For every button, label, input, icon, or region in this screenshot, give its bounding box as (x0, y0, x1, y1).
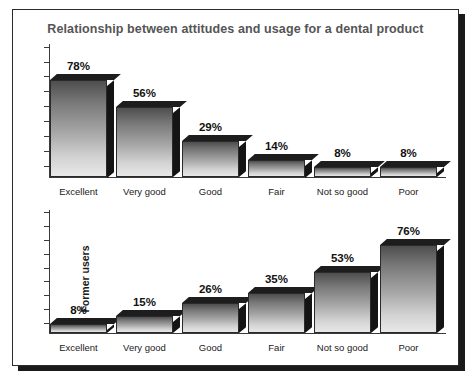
x-axis-category-label: Good (182, 186, 239, 197)
bar-face (314, 167, 371, 177)
chart-frame: Relationship between attitudes and usage… (12, 9, 459, 366)
bar-face (380, 245, 437, 333)
x-axis-category-label: Poor (380, 186, 437, 197)
y-axis-tick (44, 121, 49, 122)
bar-top-3d (182, 135, 253, 141)
bar-top-3d (50, 74, 121, 80)
y-axis-tick (44, 62, 49, 63)
y-axis-tick (44, 136, 49, 137)
bar-side-3d (437, 245, 444, 333)
x-axis-category-label: Not so good (314, 342, 371, 353)
bar-face (248, 160, 305, 178)
bar[interactable] (50, 324, 107, 333)
bar-face (380, 167, 437, 177)
y-axis-tick (44, 76, 49, 77)
bar-face (248, 293, 305, 333)
bar-group-former-users: 8%Excellent15%Very good26%Good35%Fair53%… (50, 210, 446, 333)
bar[interactable] (380, 245, 437, 333)
bar-value-label: 29% (182, 121, 239, 133)
bar-side-3d (239, 303, 246, 333)
bar-top-3d (314, 161, 385, 167)
y-axis-tick (44, 281, 49, 282)
bar-value-label: 76% (380, 225, 437, 237)
x-axis-category-label: Fair (248, 342, 305, 353)
chart-screenshot: Relationship between attitudes and usage… (0, 0, 472, 381)
bar-slot: 76%Poor (380, 210, 446, 333)
x-axis-category-label: Fair (248, 186, 305, 197)
bar-group-current-users: 78%Excellent56%Very good29%Good14%Fair8%… (50, 44, 446, 177)
bar-side-3d (173, 107, 180, 177)
x-axis-category-label: Good (182, 342, 239, 353)
bar-slot: 35%Fair (248, 210, 314, 333)
bar-face (116, 316, 173, 333)
bar-value-label: 35% (248, 273, 305, 285)
chart-panel-former-users: Former users 8%Excellent15%Very good26%G… (13, 206, 460, 356)
bar-slot: 8%Poor (380, 44, 446, 177)
y-axis-tick (44, 166, 49, 167)
bar-face (182, 141, 239, 177)
bar-slot: 78%Excellent (50, 44, 116, 177)
bar-face (182, 303, 239, 333)
bar-slot: 8%Not so good (314, 44, 380, 177)
bar[interactable] (116, 316, 173, 333)
bar-value-label: 26% (182, 283, 239, 295)
y-axis-tick (44, 254, 49, 255)
bar[interactable] (248, 293, 305, 333)
y-axis-tick (44, 91, 49, 92)
bar-value-label: 14% (248, 140, 305, 152)
bar-slot: 14%Fair (248, 44, 314, 177)
bar-side-3d (305, 160, 312, 177)
bar[interactable] (182, 141, 239, 177)
bar-top-3d (248, 287, 319, 293)
bar-top-3d (380, 239, 451, 245)
bar-value-label: 15% (116, 296, 173, 308)
bar-side-3d (437, 167, 444, 177)
chart-title: Relationship between attitudes and usage… (13, 22, 458, 36)
y-axis-tick (44, 106, 49, 107)
bar-side-3d (239, 141, 246, 177)
bar[interactable] (380, 167, 437, 177)
y-axis-tick (44, 268, 49, 269)
x-axis-category-label: Excellent (50, 342, 107, 353)
bar-side-3d (173, 316, 180, 333)
chart-panel-current-users: Current users 78%Excellent56%Very good29… (13, 40, 460, 200)
bar-slot: 8%Excellent (50, 210, 116, 333)
bar-slot: 53%Not so good (314, 210, 380, 333)
bar-face (314, 272, 371, 333)
bar-slot: 56%Very good (116, 44, 182, 177)
bar-face (116, 107, 173, 177)
bar-value-label: 8% (50, 304, 107, 316)
bar-slot: 29%Good (182, 44, 248, 177)
bar-side-3d (107, 80, 114, 177)
bar[interactable] (50, 80, 107, 178)
plot-area-current-users: 78%Excellent56%Very good29%Good14%Fair8%… (49, 44, 446, 178)
y-axis-tick (44, 323, 49, 324)
bar-value-label: 78% (50, 60, 107, 72)
bar[interactable] (182, 303, 239, 333)
bar[interactable] (248, 160, 305, 178)
bar-side-3d (107, 324, 114, 333)
bar-slot: 15%Very good (116, 210, 182, 333)
bar-top-3d (380, 161, 451, 167)
y-axis-tick (44, 226, 49, 227)
bar-slot: 26%Good (182, 210, 248, 333)
bar-value-label: 56% (116, 87, 173, 99)
y-axis-tick (44, 240, 49, 241)
y-axis-tick (44, 309, 49, 310)
bar-side-3d (371, 272, 378, 333)
x-axis-category-label: Very good (116, 186, 173, 197)
x-axis-category-label: Not so good (314, 186, 371, 197)
y-axis-tick (44, 212, 49, 213)
bar-face (50, 80, 107, 178)
bar-side-3d (305, 293, 312, 333)
bar[interactable] (314, 272, 371, 333)
bar-top-3d (182, 297, 253, 303)
bar-face (50, 324, 107, 333)
bar[interactable] (116, 107, 173, 177)
bar[interactable] (314, 167, 371, 177)
x-axis-category-label: Very good (116, 342, 173, 353)
bar-side-3d (371, 167, 378, 177)
bar-top-3d (248, 154, 319, 160)
x-axis-category-label: Excellent (50, 186, 107, 197)
bar-value-label: 8% (314, 147, 371, 159)
